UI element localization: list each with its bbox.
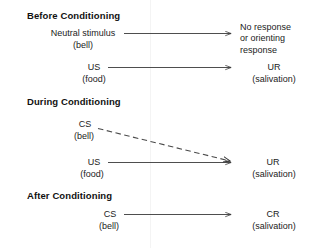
response-sublabel-salivation-before: (salivation) bbox=[252, 74, 296, 86]
response-sublabel-salivation-during: (salivation) bbox=[252, 169, 296, 181]
stimulus-label-cs-after: CS bbox=[104, 209, 117, 221]
section-heading-during-conditioning: During Conditioning bbox=[27, 96, 121, 107]
response-sublabel-salivation-after: (salivation) bbox=[252, 221, 296, 233]
response-label-no-response: No response bbox=[240, 22, 291, 34]
response-label-or-orienting: or orienting bbox=[240, 33, 285, 45]
response-label-cr-after: CR bbox=[267, 209, 280, 221]
stimulus-sublabel-bell-after: (bell) bbox=[99, 221, 119, 233]
stimulus-sublabel-bell: (bell) bbox=[73, 40, 93, 52]
response-label-ur-before: UR bbox=[268, 62, 281, 74]
section-heading-after-conditioning: After Conditioning bbox=[27, 190, 112, 201]
stimulus-label-us-during: US bbox=[88, 157, 101, 169]
response-label-ur-during: UR bbox=[267, 157, 280, 169]
arrow-cs-to-ur-during-dashed bbox=[98, 129, 230, 162]
classical-conditioning-diagram: Before Conditioning Neutral stimulus (be… bbox=[0, 0, 319, 248]
scan-seam-artifact bbox=[150, 0, 151, 248]
stimulus-label-us-before: US bbox=[88, 62, 101, 74]
stimulus-sublabel-bell-during: (bell) bbox=[74, 131, 94, 143]
stimulus-label-cs-during: CS bbox=[79, 119, 92, 131]
stimulus-sublabel-food-before: (food) bbox=[82, 74, 106, 86]
section-heading-before-conditioning: Before Conditioning bbox=[27, 10, 120, 21]
response-label-response: response bbox=[240, 45, 277, 57]
stimulus-sublabel-food-during: (food) bbox=[80, 169, 104, 181]
stimulus-label-neutral-stimulus: Neutral stimulus bbox=[51, 28, 116, 40]
